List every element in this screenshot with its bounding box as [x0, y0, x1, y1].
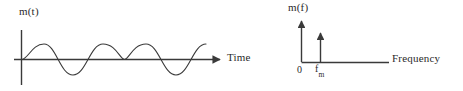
modulation-signal-diagram: m(t) Time m(f) 0 fm Frequency	[0, 0, 463, 91]
time-axis-label: Time	[227, 52, 251, 63]
time-domain-panel	[14, 30, 220, 85]
frequency-fm-label: fm	[315, 64, 324, 77]
fm-base: f	[315, 63, 319, 74]
fm-subscript: m	[319, 70, 325, 79]
frequency-domain-signal-label: m(f)	[288, 2, 308, 13]
frequency-axis-label: Frequency	[392, 53, 440, 64]
time-domain-signal-label: m(t)	[19, 6, 39, 17]
frequency-domain-panel	[302, 21, 390, 63]
diagram-canvas	[0, 0, 463, 91]
frequency-origin-label: 0	[297, 65, 302, 75]
